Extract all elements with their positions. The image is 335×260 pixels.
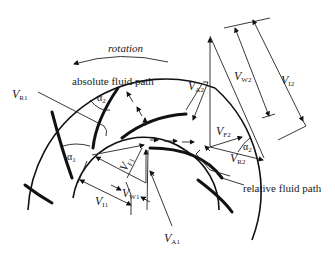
outlet-velocity-triangle xyxy=(210,36,264,160)
vi2-label: VI2 xyxy=(281,73,295,88)
rotation-label: rotation xyxy=(108,42,144,54)
alpha2-right-label: α2 xyxy=(243,141,252,154)
vw2-dimension xyxy=(224,18,275,118)
alpha1-arc xyxy=(63,144,90,146)
vf1-label: VF1 xyxy=(116,153,136,173)
absolute-fluid-path-label: absolute fluid path xyxy=(72,75,154,87)
turbine-velocity-diagram: rotation absolute fluid path relative fl… xyxy=(0,0,335,260)
vr1-angle-tick xyxy=(104,126,107,136)
va1-label: VA1 xyxy=(164,231,180,246)
relative-path-leader-2 xyxy=(222,178,244,185)
vi2-dimension xyxy=(253,20,306,140)
outer-runner-rim xyxy=(28,79,261,240)
relative-path-arrow xyxy=(205,146,210,151)
rotation-arrow xyxy=(74,56,168,64)
vr2-label: VR2 xyxy=(230,151,246,166)
vf2-label: VF2 xyxy=(216,124,231,139)
vw1-label: VW1 xyxy=(122,186,140,201)
vi1-label: VI1 xyxy=(95,194,109,209)
relative-fluid-path-label: relative fluid path xyxy=(243,182,322,194)
alpha1-label: α1 xyxy=(67,151,76,164)
vr1-label: VR1 xyxy=(12,87,28,102)
vw2-label: VW2 xyxy=(234,69,252,84)
va2-label: VA2 xyxy=(188,79,204,94)
vr1-leader xyxy=(38,92,104,126)
